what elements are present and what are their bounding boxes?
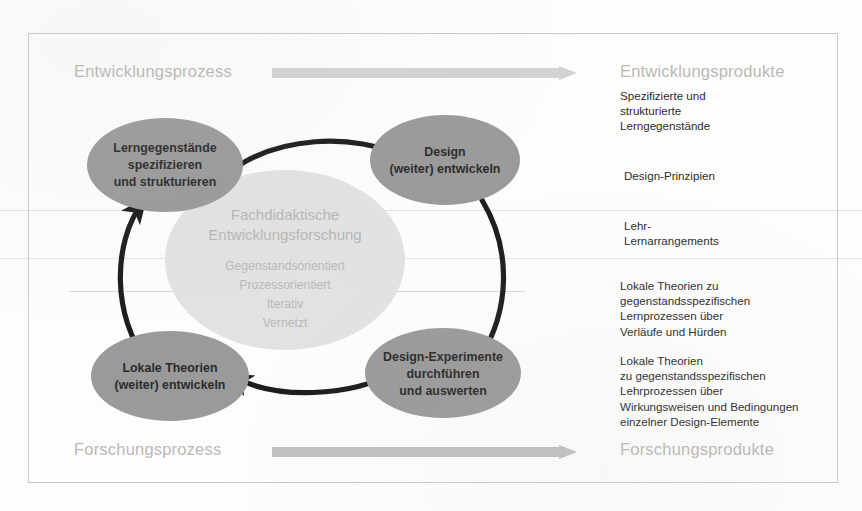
arrow-shaft xyxy=(272,68,559,78)
node-ellipse xyxy=(91,331,249,421)
arrow-shaft xyxy=(272,447,559,457)
diagram-page: Entwicklungsprozess Entwicklungsprodukte… xyxy=(0,0,862,511)
product-spezifizierte-lerngegenstaende: Spezifizierte und strukturierte Lerngege… xyxy=(620,88,710,134)
label-entwicklungsprodukte: Entwicklungsprodukte xyxy=(620,62,785,81)
product-lokale-theorien-lehrprozesse: Lokale Theorien zu gegenstandsspezifisch… xyxy=(620,353,799,429)
node-ellipse xyxy=(370,115,520,205)
node-label-line-1: Lokale Theorien xyxy=(122,361,217,375)
arrow-head xyxy=(559,445,577,459)
node-design-entwickeln: Design (weiter) entwickeln xyxy=(370,115,520,205)
product-lokale-theorien-lernprozesse: Lokale Theorien zu gegenstandsspezifisch… xyxy=(620,278,750,339)
product-lehr-lernarrangements: Lehr- Lernarrangements xyxy=(624,218,719,248)
node-label-line-3: und strukturieren xyxy=(114,175,217,189)
label-entwicklungsprozess: Entwicklungsprozess xyxy=(74,62,232,81)
node-design-experimente: Design-Experimente durchführen und auswe… xyxy=(365,328,521,418)
node-label-line-2: durchführen xyxy=(407,367,480,381)
node-lokale-theorien: Lokale Theorien (weiter) entwickeln xyxy=(91,331,249,421)
label-forschungsprozess: Forschungsprozess xyxy=(74,440,221,459)
node-label-line-2: spezifizieren xyxy=(128,158,202,172)
center-item-vernetzt: Vernetzt xyxy=(263,316,308,330)
label-forschungsprodukte: Forschungsprodukte xyxy=(620,440,774,459)
node-label-line-1: Lerngegenstände xyxy=(113,141,216,155)
node-lerngegenstaende: Lerngegenstände spezifizieren und strukt… xyxy=(87,118,243,212)
node-label-line-2: (weiter) entwickeln xyxy=(390,162,501,176)
arrow-entwicklungsprozess xyxy=(272,66,577,80)
product-design-prinzipien: Design-Prinzipien xyxy=(624,168,715,183)
node-label-line-1: Design-Experimente xyxy=(383,350,503,364)
node-label-line-2: (weiter) entwickeln xyxy=(115,378,226,392)
center-title-line1: Fachdidaktische xyxy=(231,206,339,223)
cycle-diagram: Fachdidaktische Entwicklungsforschung Ge… xyxy=(60,80,560,440)
arrow-forschungsprozess xyxy=(272,445,577,459)
arrow-design-to-experimente xyxy=(480,200,504,358)
center-item-gegenstandsorientiert: Gegenstandsorientiert xyxy=(225,259,346,273)
node-label-line-1: Design xyxy=(424,145,465,159)
arrow-head xyxy=(559,66,577,80)
center-item-iterativ: Iterativ xyxy=(267,297,304,311)
center-title-line2: Entwicklungsforschung xyxy=(208,226,361,243)
node-label-line-3: und auswerten xyxy=(399,384,486,398)
center-item-prozessorientiert: Prozessorientiert xyxy=(239,278,331,292)
